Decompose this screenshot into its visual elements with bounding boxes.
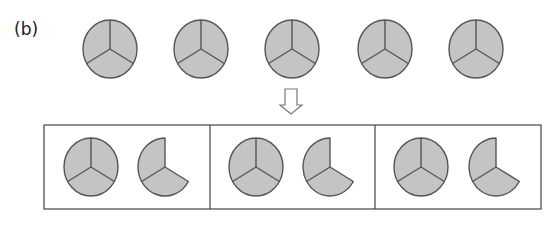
top-row-pies (83, 20, 503, 78)
top-pie-3 (265, 20, 319, 78)
top-pie-2 (174, 20, 228, 78)
box-2 (229, 138, 353, 196)
top-pie-4 (358, 20, 412, 78)
box-2-partial-pie (303, 138, 353, 196)
top-pie-1 (83, 20, 137, 78)
box-1-partial-pie (138, 138, 188, 196)
box-2-full-pie (229, 138, 283, 196)
top-pie-5 (449, 20, 503, 78)
box-3-full-pie (394, 138, 448, 196)
box-3 (394, 138, 519, 196)
box-1-full-pie (64, 138, 118, 196)
pie-diagram (0, 0, 554, 235)
down-arrow-icon (280, 89, 302, 114)
box-1 (64, 138, 188, 196)
box-3-partial-pie (469, 138, 519, 196)
bottom-row-boxes (44, 125, 541, 209)
